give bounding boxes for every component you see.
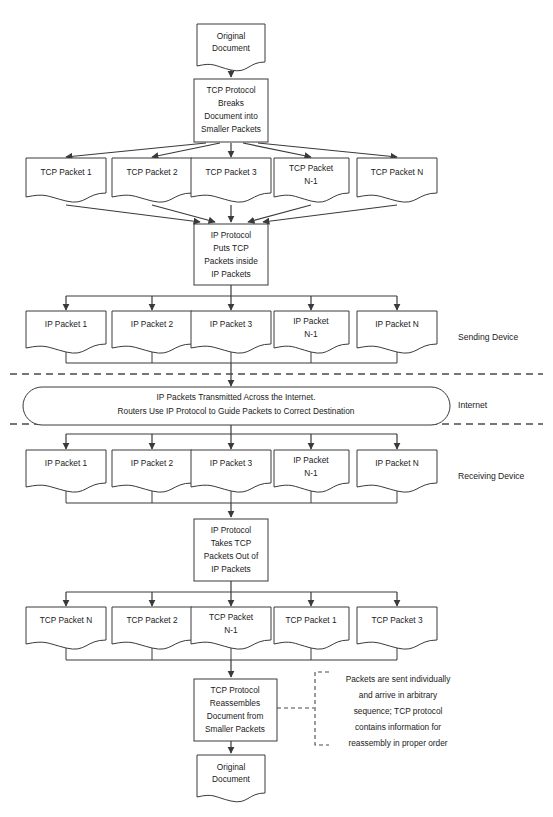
original-document-top-line-1: Document	[212, 43, 251, 53]
zone-label-receiving-device: Receiving Device	[458, 471, 525, 481]
tcp-breaks-line-1: Breaks	[218, 98, 244, 108]
packet-ip-send-3-line-1: N-1	[304, 329, 318, 339]
callout-line-1: and arrive in arbitrary	[359, 690, 438, 700]
packet-tcp-recv-1: TCP Packet 2	[112, 607, 192, 649]
node-tcp-breaks: TCP Protocol Breaks Document into Smalle…	[194, 79, 268, 142]
packet-ip-send-3: IP Packet N-1	[274, 311, 349, 353]
node-ip-takes: IP Protocol Takes TCP Packets Out of IP …	[194, 519, 268, 581]
packet-tcp-recv-4: TCP Packet 3	[357, 607, 437, 649]
packet-tcp-send-3: TCP Packet N-1	[274, 158, 349, 202]
packet-ip-send-3-line-0: IP Packet	[293, 316, 329, 326]
ip-takes-line-0: IP Protocol	[211, 525, 252, 535]
packet-ip-send-2-line-0: IP Packet 3	[210, 319, 253, 329]
ip-takes-line-2: Packets Out of	[204, 551, 259, 561]
callout-line-2: sequence; TCP protocol	[354, 706, 443, 716]
packet-tcp-recv-1-line-0: TCP Packet 2	[126, 615, 177, 625]
packet-tcp-recv-2-line-0: TCP Packet	[209, 612, 254, 622]
zone-label-sending-device: Sending Device	[458, 332, 518, 342]
tcp-reassembles-line-2: Document from	[207, 711, 264, 721]
callout-line-4: reassembly in proper order	[348, 738, 447, 748]
packet-tcp-send-1: TCP Packet 2	[112, 158, 192, 202]
node-original-document-bottom: Original Document	[197, 755, 265, 802]
node-tcp-reassembles: TCP Protocol Reassembles Document from S…	[194, 679, 277, 741]
tcp-breaks-line-3: Smaller Packets	[201, 124, 261, 134]
packet-ip-recv-4: IP Packet N	[357, 450, 437, 492]
packet-ip-recv-0: IP Packet 1	[26, 450, 106, 492]
packet-tcp-recv-2: TCP Packet N-1	[191, 607, 271, 649]
tcp-breaks-line-0: TCP Protocol	[206, 85, 255, 95]
packet-ip-recv-0-line-0: IP Packet 1	[45, 458, 88, 468]
tcp-reassembles-line-0: TCP Protocol	[210, 685, 259, 695]
flow-diagram-canvas: Original Document TCP Protocol Breaks Do…	[0, 0, 553, 817]
packet-tcp-recv-3-line-0: TCP Packet 1	[285, 615, 336, 625]
tcp-breaks-line-2: Document into	[204, 111, 258, 121]
row-tcp-packets-sending: TCP Packet 1 TCP Packet 2 TCP Packet 3 T…	[26, 158, 437, 202]
packet-ip-recv-2-line-0: IP Packet 3	[210, 458, 253, 468]
packet-tcp-recv-3: TCP Packet 1	[274, 607, 349, 649]
packet-ip-recv-3-line-1: N-1	[304, 468, 318, 478]
node-original-document-top: Original Document	[197, 24, 265, 71]
ip-puts-line-0: IP Protocol	[211, 230, 252, 240]
packet-tcp-send-3-line-1: N-1	[304, 176, 318, 186]
packet-ip-send-2: IP Packet 3	[191, 311, 271, 353]
packet-ip-recv-3-line-0: IP Packet	[293, 455, 329, 465]
tcpip-flow-diagram: Original Document TCP Protocol Breaks Do…	[0, 0, 553, 817]
row-ip-packets-sending: IP Packet 1 IP Packet 2 IP Packet 3 IP P…	[26, 311, 518, 353]
packet-ip-recv-1-line-0: IP Packet 2	[131, 458, 174, 468]
callout-line-3: contains information for	[355, 722, 441, 732]
ip-takes-line-1: Takes TCP	[211, 538, 252, 548]
original-document-bottom-line-0: Original	[217, 762, 246, 772]
packet-ip-send-1-line-0: IP Packet 2	[131, 319, 174, 329]
internet-oval-line-1: Routers Use IP Protocol to Guide Packets…	[118, 406, 355, 416]
packet-tcp-send-2-line-0: TCP Packet 3	[205, 167, 256, 177]
packet-ip-recv-3: IP Packet N-1	[274, 450, 349, 492]
packet-ip-recv-1: IP Packet 2	[112, 450, 192, 492]
packet-ip-recv-2: IP Packet 3	[191, 450, 271, 492]
packet-tcp-send-0-line-0: TCP Packet 1	[40, 167, 91, 177]
packet-tcp-recv-2-line-1: N-1	[224, 625, 238, 635]
ip-takes-line-3: IP Packets	[211, 564, 251, 574]
packet-ip-send-1: IP Packet 2	[112, 311, 192, 353]
row-ip-packets-receiving: IP Packet 1 IP Packet 2 IP Packet 3 IP P…	[26, 450, 525, 492]
callout-note: Packets are sent individually and arrive…	[315, 672, 451, 748]
packet-tcp-recv-4-line-0: TCP Packet 3	[371, 615, 422, 625]
ip-puts-line-1: Puts TCP	[213, 243, 249, 253]
ip-puts-line-3: IP Packets	[211, 269, 251, 279]
tcp-reassembles-line-1: Reassembles	[210, 698, 260, 708]
packet-tcp-recv-0: TCP Packet N	[26, 607, 106, 649]
packet-ip-recv-4-line-0: IP Packet N	[375, 458, 419, 468]
zone-label-internet: Internet	[458, 400, 488, 410]
node-ip-puts: IP Protocol Puts TCP Packets inside IP P…	[194, 224, 268, 285]
packet-ip-send-4-line-0: IP Packet N	[375, 319, 419, 329]
packet-tcp-send-3-line-0: TCP Packet	[289, 163, 334, 173]
internet-oval-line-0: IP Packets Transmitted Across the Intern…	[157, 392, 316, 402]
original-document-top-line-0: Original	[217, 31, 246, 41]
packet-tcp-send-2: TCP Packet 3	[191, 158, 271, 202]
packet-tcp-send-4: TCP Packet N	[357, 158, 437, 202]
ip-puts-line-2: Packets inside	[204, 256, 258, 266]
packet-tcp-send-0: TCP Packet 1	[26, 158, 106, 202]
tcp-reassembles-line-3: Smaller Packets	[205, 724, 265, 734]
packet-tcp-recv-0-line-0: TCP Packet N	[40, 615, 92, 625]
packet-tcp-send-4-line-0: TCP Packet N	[371, 167, 423, 177]
original-document-bottom-line-1: Document	[212, 774, 251, 784]
packet-ip-send-0: IP Packet 1	[26, 311, 106, 353]
row-tcp-packets-receiving: TCP Packet N TCP Packet 2 TCP Packet N-1…	[26, 607, 437, 649]
packet-ip-send-4: IP Packet N	[357, 311, 437, 353]
packet-tcp-send-1-line-0: TCP Packet 2	[126, 167, 177, 177]
callout-line-0: Packets are sent individually	[346, 674, 452, 684]
packet-ip-send-0-line-0: IP Packet 1	[45, 319, 88, 329]
node-internet-oval: IP Packets Transmitted Across the Intern…	[23, 387, 488, 425]
